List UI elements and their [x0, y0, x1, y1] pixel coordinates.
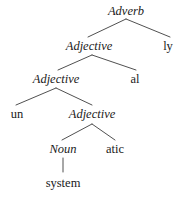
- tree-node-adjective: Adjective: [66, 40, 113, 53]
- tree-node-system: system: [46, 177, 81, 190]
- derivation-tree-figure: AdverbAdjectivelyAdjectivealunAdjectiveN…: [0, 0, 185, 206]
- tree-edge: [62, 124, 92, 140]
- tree-edge: [92, 124, 115, 140]
- tree-node-adverb: Adverb: [108, 5, 144, 18]
- tree-edge: [126, 19, 170, 37]
- tree-node-adjective: Adjective: [69, 108, 116, 121]
- tree-node-al: al: [130, 73, 139, 86]
- tree-edge: [16, 88, 56, 105]
- tree-edge: [88, 19, 126, 37]
- tree-node-un: un: [11, 108, 24, 121]
- tree-edge: [58, 55, 92, 70]
- tree-edges: [0, 0, 185, 206]
- tree-edge: [92, 55, 136, 70]
- tree-node-adjective: Adjective: [33, 73, 80, 86]
- tree-node-atic: atic: [106, 143, 124, 156]
- tree-node-noun: Noun: [49, 143, 76, 156]
- tree-edge: [56, 88, 92, 105]
- tree-node-ly: ly: [163, 40, 173, 53]
